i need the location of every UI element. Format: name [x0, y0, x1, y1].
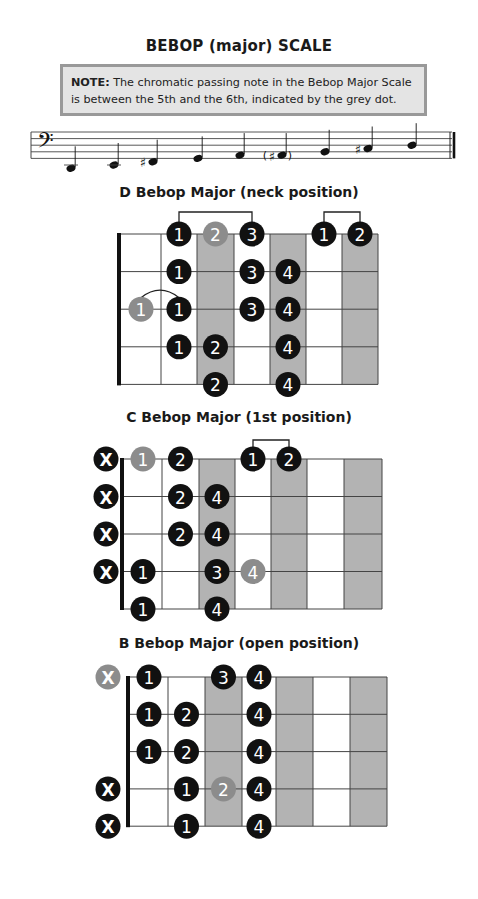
- finger-dot: 1: [131, 447, 156, 472]
- finger-dot: 4: [276, 334, 301, 359]
- finger-dot: 1: [167, 334, 192, 359]
- finger-number: 1: [181, 817, 192, 837]
- finger-dot: 1: [137, 739, 162, 764]
- bass-clef-icon: 𝄢: [37, 128, 54, 158]
- nut: [117, 233, 121, 385]
- sharp-icon: ♯: [140, 155, 146, 170]
- finger-dot: 2: [203, 222, 228, 247]
- sharp-icon: ♯: [269, 149, 275, 164]
- paren-left: (: [263, 149, 267, 162]
- x-marker-label: X: [101, 780, 114, 800]
- finger-number: 1: [138, 563, 149, 583]
- finger-dot: 4: [247, 814, 272, 839]
- finger-dot: 2: [168, 484, 193, 509]
- note: ♯: [140, 140, 159, 171]
- finger-number: 2: [210, 375, 221, 395]
- finger-number: 1: [174, 338, 185, 358]
- finger-number: 2: [181, 743, 192, 763]
- note: [320, 130, 331, 157]
- finger-number: 4: [283, 263, 294, 283]
- finger-dot: 4: [276, 259, 301, 284]
- finger-number: 4: [212, 525, 223, 545]
- finger-number: 3: [218, 668, 229, 688]
- muted-string-marker: X: [96, 665, 121, 690]
- finger-dot: 4: [241, 559, 266, 584]
- bass-staff: 𝄢♯♯()♯: [31, 123, 454, 173]
- x-marker-label: X: [101, 668, 114, 688]
- finger-number: 1: [174, 300, 185, 320]
- paren-right: ): [288, 149, 292, 162]
- finger-dot: 1: [241, 447, 266, 472]
- finger-number: 4: [212, 488, 223, 508]
- finger-number: 1: [174, 263, 185, 283]
- finger-dot: 1: [167, 259, 192, 284]
- finger-dot: 4: [205, 522, 230, 547]
- finger-number: 1: [144, 743, 155, 763]
- x-marker-label: X: [101, 817, 114, 837]
- finger-dot: 1: [174, 776, 199, 801]
- note: [107, 143, 121, 170]
- finger-dot: 4: [276, 297, 301, 322]
- x-marker-label: X: [99, 450, 112, 470]
- finger-number: 4: [254, 705, 265, 725]
- finger-number: 4: [283, 375, 294, 395]
- finger-number: 1: [136, 300, 147, 320]
- nut: [126, 676, 130, 827]
- finger-dot: 1: [137, 665, 162, 690]
- finger-number: 1: [174, 225, 185, 245]
- muted-string-marker: X: [94, 447, 119, 472]
- finger-number: 1: [181, 780, 192, 800]
- finger-dot: 1: [131, 559, 156, 584]
- finger-number: 2: [175, 488, 186, 508]
- fretboard-diagram-1: 12312134113412424: [117, 212, 378, 397]
- finger-dot: 2: [211, 776, 236, 801]
- note: [407, 123, 418, 150]
- muted-string-marker: X: [96, 814, 121, 839]
- finger-bracket: [324, 212, 360, 224]
- finger-number: 3: [247, 225, 258, 245]
- finger-number: 1: [144, 705, 155, 725]
- x-marker-label: X: [99, 563, 112, 583]
- finger-dot: 4: [276, 372, 301, 397]
- finger-number: 2: [210, 338, 221, 358]
- finger-number: 2: [181, 705, 192, 725]
- finger-dot: 2: [203, 372, 228, 397]
- finger-number: 2: [218, 780, 229, 800]
- slide-arc: [141, 290, 179, 298]
- finger-dot: 1: [167, 297, 192, 322]
- finger-bracket: [253, 440, 289, 449]
- finger-dot: 4: [247, 776, 272, 801]
- finger-number: 2: [175, 525, 186, 545]
- finger-dot: 4: [205, 484, 230, 509]
- finger-number: 4: [254, 668, 265, 688]
- finger-dot: 1: [131, 597, 156, 622]
- finger-dot: 1: [312, 222, 337, 247]
- note: ♯: [355, 127, 374, 158]
- finger-number: 1: [144, 668, 155, 688]
- finger-number: 4: [254, 780, 265, 800]
- finger-dot: 3: [240, 222, 265, 247]
- muted-string-marker: X: [96, 776, 121, 801]
- finger-number: 3: [212, 563, 223, 583]
- finger-dot: 2: [203, 334, 228, 359]
- finger-dot: 2: [168, 522, 193, 547]
- muted-string-marker: X: [94, 522, 119, 547]
- x-marker-label: X: [99, 488, 112, 508]
- finger-number: 4: [212, 600, 223, 620]
- finger-number: 1: [138, 600, 149, 620]
- muted-string-marker: X: [94, 484, 119, 509]
- finger-dot: 2: [277, 447, 302, 472]
- finger-number: 4: [254, 743, 265, 763]
- x-marker-label: X: [99, 525, 112, 545]
- finger-number: 2: [284, 450, 295, 470]
- finger-dot: 2: [174, 702, 199, 727]
- finger-number: 4: [283, 300, 294, 320]
- finger-dot: 3: [240, 259, 265, 284]
- finger-number: 2: [355, 225, 366, 245]
- finger-number: 1: [248, 450, 259, 470]
- finger-dot: 1: [137, 702, 162, 727]
- finger-dot: 1: [129, 297, 154, 322]
- finger-number: 1: [138, 450, 149, 470]
- nut: [120, 458, 124, 610]
- muted-string-marker: X: [94, 559, 119, 584]
